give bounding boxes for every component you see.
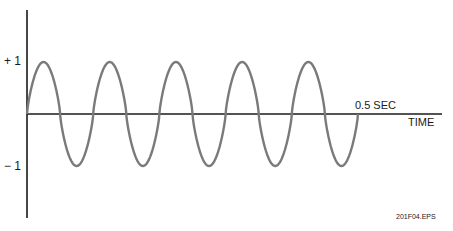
figure-id: 201F04.EPS [396,213,436,220]
x-axis-label: TIME [408,116,434,128]
y-label-minus-one: − 1 [4,159,21,173]
sine-wave-diagram: + 1 − 1 0.5 SEC TIME 201F04.EPS [0,0,453,231]
time-marker-label: 0.5 SEC [355,99,396,111]
y-label-plus-one: + 1 [4,54,21,68]
